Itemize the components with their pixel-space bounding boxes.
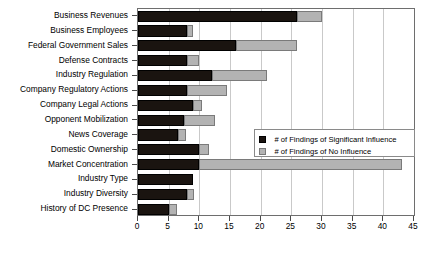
category-label: News Coverage bbox=[0, 127, 128, 142]
bar-segment-no-influence bbox=[199, 144, 208, 155]
category-label: Industry Diversity bbox=[0, 186, 128, 201]
category-label: Company Regulatory Actions bbox=[0, 82, 128, 97]
bar-segment-significant-influence bbox=[138, 159, 199, 170]
bar-segment-no-influence bbox=[193, 100, 202, 111]
bar-segment-no-influence bbox=[187, 189, 194, 200]
bar-segment-significant-influence bbox=[138, 85, 187, 96]
category-label: History of DC Presence bbox=[0, 201, 128, 216]
category-tick bbox=[132, 105, 137, 106]
value-tick-label: 30 bbox=[309, 221, 333, 231]
bar-row bbox=[138, 202, 416, 217]
bar-segment-significant-influence bbox=[138, 144, 199, 155]
value-tick-label: 5 bbox=[156, 221, 180, 231]
gray-square-icon bbox=[259, 148, 266, 155]
bar-segment-no-influence bbox=[187, 25, 193, 36]
category-tick bbox=[132, 149, 137, 150]
bar-segment-no-influence bbox=[212, 70, 267, 81]
bar-segment-significant-influence bbox=[138, 40, 236, 51]
category-tick bbox=[132, 179, 137, 180]
bar-segment-no-influence bbox=[184, 115, 215, 126]
bar-segment-significant-influence bbox=[138, 204, 169, 215]
black-square-icon bbox=[259, 136, 266, 143]
category-tick bbox=[132, 194, 137, 195]
category-label: Opponent Mobilization bbox=[0, 112, 128, 127]
bar-segment-no-influence bbox=[169, 204, 177, 215]
value-tick-label: 0 bbox=[125, 221, 149, 231]
category-tick bbox=[132, 15, 137, 16]
bar-segment-no-influence bbox=[187, 85, 227, 96]
value-tick-label: 15 bbox=[217, 221, 241, 231]
category-label: Business Revenues bbox=[0, 8, 128, 23]
category-tick bbox=[132, 134, 137, 135]
legend-entry-no-influence: # of Findings of No Influence bbox=[259, 145, 371, 157]
category-label: Market Concentration bbox=[0, 157, 128, 172]
bar-segment-significant-influence bbox=[138, 25, 187, 36]
bar-segment-no-influence bbox=[236, 40, 297, 51]
bar-row bbox=[138, 98, 416, 113]
category-axis-labels: Business RevenuesBusiness EmployeesFeder… bbox=[0, 8, 133, 216]
bar-row bbox=[138, 54, 416, 69]
bar-segment-significant-influence bbox=[138, 11, 297, 22]
category-label: Industry Regulation bbox=[0, 67, 128, 82]
legend-label: # of Findings of No Influence bbox=[274, 147, 371, 156]
bar-segment-significant-influence bbox=[138, 100, 193, 111]
bar-row bbox=[138, 39, 416, 54]
bar-segment-no-influence bbox=[199, 159, 401, 170]
value-tick-label: 20 bbox=[248, 221, 272, 231]
bar-segment-significant-influence bbox=[138, 70, 212, 81]
category-tick bbox=[132, 164, 137, 165]
category-tick bbox=[132, 60, 137, 61]
category-tick bbox=[132, 119, 137, 120]
value-tick-label: 25 bbox=[278, 221, 302, 231]
legend-label: # of Findings of Significant Influence bbox=[274, 135, 396, 144]
bar-row bbox=[138, 24, 416, 39]
bar-row bbox=[138, 83, 416, 98]
bar-row bbox=[138, 9, 416, 24]
value-tick-label: 40 bbox=[370, 221, 394, 231]
chart-legend: # of Findings of Significant Influence #… bbox=[254, 129, 415, 157]
horizontal-bar-chart: Business RevenuesBusiness EmployeesFeder… bbox=[0, 0, 433, 264]
bar-segment-significant-influence bbox=[138, 189, 187, 200]
category-label: Business Employees bbox=[0, 23, 128, 38]
category-label: Industry Type bbox=[0, 171, 128, 186]
category-tick bbox=[132, 45, 137, 46]
value-axis-labels: 051015202530354045 bbox=[0, 221, 433, 235]
bar-row bbox=[138, 68, 416, 83]
value-tick-label: 10 bbox=[186, 221, 210, 231]
bar-segment-no-influence bbox=[178, 129, 186, 140]
value-tick-label: 45 bbox=[401, 221, 425, 231]
category-label: Domestic Ownership bbox=[0, 142, 128, 157]
legend-entry-significant-influence: # of Findings of Significant Influence bbox=[259, 133, 396, 145]
bar-segment-significant-influence bbox=[138, 129, 178, 140]
bar-segment-significant-influence bbox=[138, 55, 187, 66]
bar-row bbox=[138, 158, 416, 173]
category-label: Company Legal Actions bbox=[0, 97, 128, 112]
category-tick bbox=[132, 209, 137, 210]
category-tick bbox=[132, 30, 137, 31]
category-tick bbox=[132, 90, 137, 91]
bar-segment-no-influence bbox=[297, 11, 322, 22]
bar-row bbox=[138, 187, 416, 202]
bar-segment-significant-influence bbox=[138, 115, 184, 126]
category-tick bbox=[132, 75, 137, 76]
bar-segment-no-influence bbox=[187, 55, 199, 66]
bar-row bbox=[138, 172, 416, 187]
plot-area bbox=[137, 8, 415, 216]
bar-row bbox=[138, 113, 416, 128]
category-label: Federal Government Sales bbox=[0, 38, 128, 53]
category-label: Defense Contracts bbox=[0, 53, 128, 68]
value-tick-label: 35 bbox=[340, 221, 364, 231]
bar-segment-significant-influence bbox=[138, 174, 193, 185]
